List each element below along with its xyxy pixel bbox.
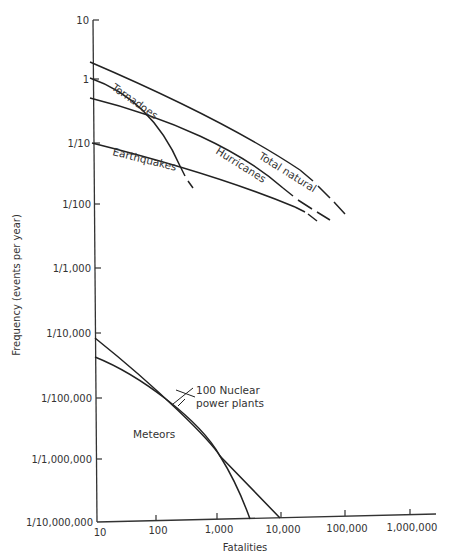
label-meteors: Meteors: [133, 428, 175, 440]
y-axis: [93, 20, 97, 522]
label-tornadoes: Tornadoes: [109, 80, 160, 121]
y-axis-label: Frequency (events per year): [11, 214, 22, 356]
x-axis: [97, 514, 436, 522]
x-tick-label: 100: [148, 525, 167, 536]
y-tick-label: 1/100,000: [41, 393, 92, 404]
label-hurricanes: Hurricanes: [214, 145, 268, 185]
series-earthquakes-dashed: [295, 207, 317, 221]
y-tick-label: 1/1,000,000: [31, 454, 92, 465]
y-tick-labels: 10 1 1/10 1/100 1/1,000 1/10,000 1/100,0…: [26, 15, 93, 528]
y-tick-label: 1/10,000: [46, 328, 91, 339]
x-tick-label: 10: [94, 527, 107, 538]
label-earthquakes: Earthquakes: [112, 145, 179, 173]
y-tick-label: 1: [83, 74, 89, 85]
meteors-pointer-b: [178, 399, 185, 406]
x-tick-label: 1,000,000: [387, 522, 438, 533]
y-tick-label: 1/10,000,000: [26, 517, 93, 528]
x-tick-label: 1,000: [205, 524, 234, 535]
y-tick-label: 1/100: [62, 199, 91, 210]
x-tick-labels: 10 100 1,000 10,000 100,000 1,000,000: [94, 522, 438, 538]
x-tick-label: 10,000: [266, 524, 301, 535]
y-tick-label: 1/10: [68, 138, 90, 149]
label-nuclear-line1: 100 Nuclear: [196, 384, 260, 396]
label-nuclear-line2: power plants: [196, 397, 264, 409]
y-tick-label: 1/1,000: [53, 263, 91, 274]
y-tick-label: 10: [76, 15, 89, 26]
series-hurricanes-dashed: [283, 188, 330, 220]
x-tick-label: 100,000: [326, 523, 367, 534]
x-axis-label: Fatalities: [223, 542, 268, 553]
series-meteors: [95, 357, 280, 518]
risk-chart: 10 1 1/10 1/100 1/1,000 1/10,000 1/100,0…: [0, 0, 449, 557]
